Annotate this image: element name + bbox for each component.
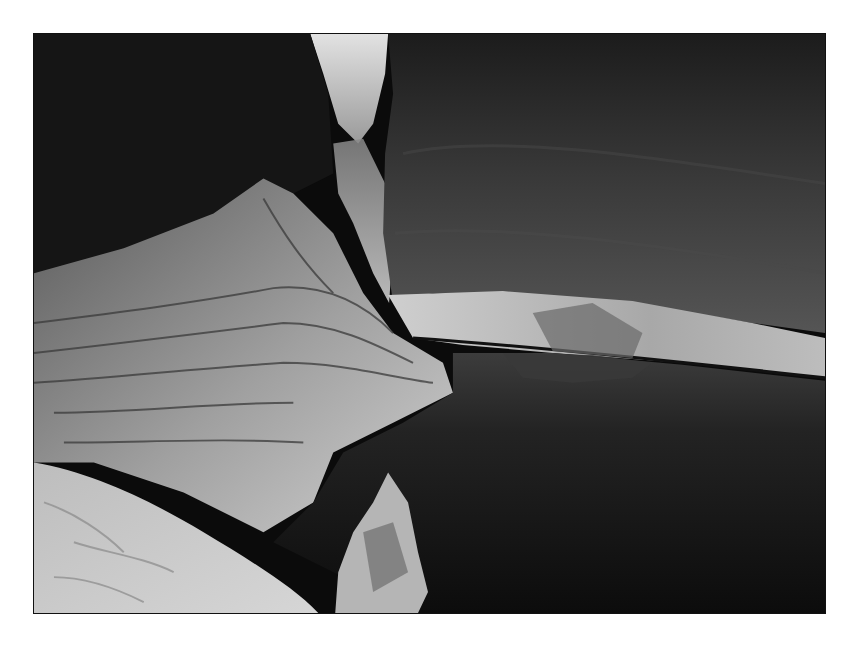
canyon-scene xyxy=(34,34,825,613)
canyon-photograph: Black and white photograph of a narrow s… xyxy=(33,33,826,614)
right-canyon-wall xyxy=(383,34,825,333)
